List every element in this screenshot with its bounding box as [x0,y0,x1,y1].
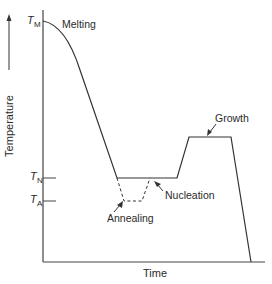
tick-tn-subscript: N [37,176,43,185]
process-diagram: Temperature Time T M T N T A Melting Gro… [0,0,272,284]
arrow-icon [154,181,161,187]
growth-label: Growth [215,112,249,124]
annealing-path [117,178,150,201]
y-axis-label: Temperature [3,95,15,157]
arrow-up-icon [7,14,12,21]
annealing-label: Annealing [107,212,154,224]
x-axis-label: Time [143,267,167,279]
nucleation-label: Nucleation [165,189,215,201]
tick-tm: T M [27,14,41,29]
process-curve [43,21,251,262]
melting-label: Melting [62,18,96,30]
growth-arrow-line [210,124,216,132]
tick-ta-subscript: A [37,199,43,208]
tick-tm-subscript: M [34,20,41,29]
